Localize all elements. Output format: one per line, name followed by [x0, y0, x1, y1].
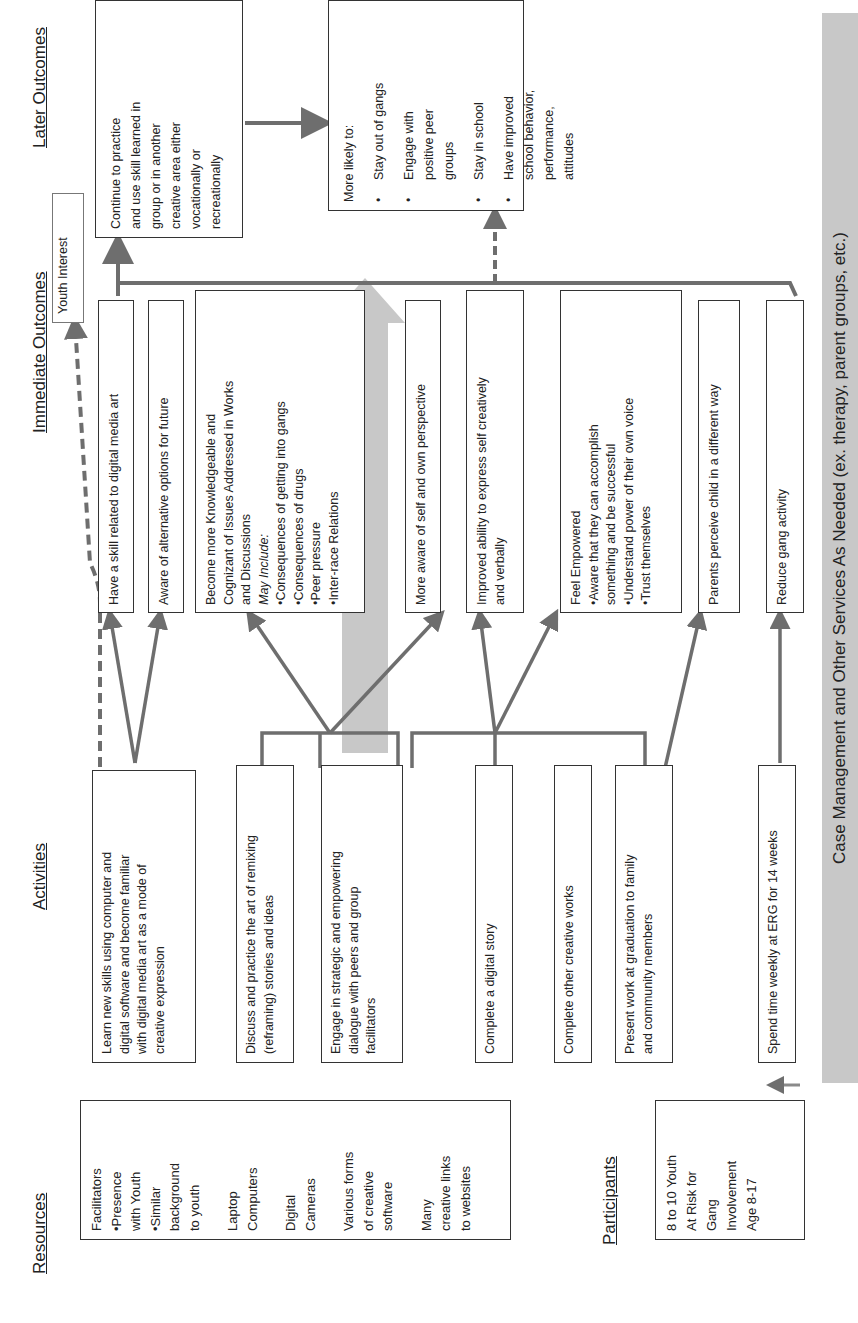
likely-line: performance,	[539, 90, 559, 180]
resource-line: Many	[417, 1109, 437, 1231]
outcome-aware: Aware of alternative options for future	[148, 300, 184, 613]
participant-line: Gang	[702, 1109, 722, 1231]
resource-line: software	[378, 1109, 398, 1231]
participant-line: 8 to 10 Youth	[662, 1109, 682, 1231]
participant-line: At Risk for	[682, 1109, 702, 1231]
outcome-line: More aware of self and own perspective	[413, 308, 431, 605]
activity-line: creative expression	[152, 779, 170, 1054]
outcome-line: and Discussions	[238, 298, 256, 605]
outcome-bullet: •Peer pressure	[308, 298, 326, 605]
resource-line	[320, 1109, 339, 1231]
logic-model-diagram: Resources Activities Immediate Outcomes …	[0, 0, 858, 1323]
likely-item: • Stay out of gangs	[369, 9, 389, 202]
activity-line: Spend time weekly at ERG for 14 weeks	[765, 774, 783, 1054]
outcome-gang: Reduce gang activity	[766, 300, 804, 613]
activity-line: with digital media art as a mode of	[134, 779, 152, 1054]
resources-box: Facilitators •Presence with Youth •Simil…	[80, 1100, 511, 1240]
likely-item: • Stay in school	[469, 9, 489, 202]
resource-line: Laptop	[223, 1109, 243, 1231]
resource-line: creative links	[436, 1109, 456, 1231]
outcome-line: Cognizant of Issues Addressed in Works	[221, 298, 239, 605]
resource-line: to youth	[185, 1109, 205, 1231]
later-line: and use skill learned in	[126, 9, 146, 229]
activity-present: Present work at graduation to family and…	[615, 765, 673, 1063]
activity-line: Complete a digital story	[482, 774, 500, 1054]
likely-line: positive peer	[419, 109, 439, 180]
outcome-line: Feel Empowered	[568, 298, 586, 605]
participant-line: Age 8-17	[742, 1109, 762, 1231]
outcome-bullet: •Consequences of drugs	[291, 298, 309, 605]
outcome-line: •Understand power of their own voice	[621, 298, 639, 605]
outcome-line: •Trust themselves	[638, 298, 656, 605]
activity-line: Discuss and practice the art of remixing	[243, 774, 261, 1054]
activity-remix: Discuss and practice the art of remixing…	[236, 765, 294, 1063]
resource-line: with Youth	[126, 1109, 146, 1231]
likely-title: More likely to:	[339, 9, 359, 202]
likely-line: Have improved	[499, 90, 519, 180]
resource-line: •Presence	[107, 1109, 127, 1231]
likely-line: school behavior,	[519, 90, 539, 180]
outcome-line: Become more Knowledgeable and	[203, 298, 221, 605]
outcome-bullet: •Inter-race Relations	[326, 298, 344, 605]
activity-dialogue: Engage in strategic and empowering dialo…	[321, 765, 403, 1063]
activity-line: and community members	[640, 774, 658, 1054]
outcome-self: More aware of self and own perspective	[405, 300, 441, 613]
later-outcome-likely: More likely to: • Stay out of gangs • En…	[328, 0, 524, 211]
outcome-line: Improved ability to express self creativ…	[474, 298, 492, 605]
activity-line: Learn new skills using computer and	[99, 779, 117, 1054]
resource-line: background	[165, 1109, 185, 1231]
activity-line: Present work at graduation to family	[622, 774, 640, 1054]
resource-line: •Similar	[146, 1109, 166, 1231]
resource-line: Computers	[243, 1109, 263, 1231]
resource-line: Facilitators	[87, 1109, 107, 1231]
likely-line: attitudes	[559, 90, 579, 180]
resource-line: Cameras	[301, 1109, 321, 1231]
participant-line: Involvement	[722, 1109, 742, 1231]
later-line: recreationally	[206, 9, 226, 229]
case-management-band: Case Management and Other Services As Ne…	[822, 13, 858, 1083]
activity-line: Complete other creative works	[561, 774, 579, 1054]
likely-line: Engage with	[399, 109, 419, 180]
later-outcome-continue: Continue to practice and use skill learn…	[95, 0, 243, 238]
outcome-line: and verbally	[492, 298, 510, 605]
resource-line	[398, 1109, 417, 1231]
later-line: group or in another	[146, 9, 166, 229]
youth-interest-callout: Youth Interest	[52, 193, 84, 323]
outcome-may-include: May Include:	[256, 298, 274, 605]
later-line: Continue to practice	[106, 9, 126, 229]
likely-line: groups	[439, 109, 459, 180]
outcome-line: Aware of alternative options for future	[156, 308, 174, 605]
outcome-express: Improved ability to express self creativ…	[466, 290, 524, 613]
resource-line: of creative	[359, 1109, 379, 1231]
activity-line: (reframing) stories and ideas	[261, 774, 279, 1054]
activity-learn: Learn new skills using computer and digi…	[92, 770, 196, 1063]
outcome-line: Have a skill related to digital media ar…	[106, 308, 124, 605]
activity-line: dialogue with peers and group	[346, 774, 364, 1054]
activity-line: Engage in strategic and empowering	[328, 774, 346, 1054]
activity-line: facilitators	[363, 774, 381, 1054]
outcome-skill: Have a skill related to digital media ar…	[98, 300, 134, 613]
resource-line: Various forms	[339, 1109, 359, 1231]
outcome-line: •Aware that they can accomplish	[586, 298, 604, 605]
activity-line: digital software and become familiar	[117, 779, 135, 1054]
likely-item: • Have improved school behavior, perform…	[499, 9, 579, 202]
resource-line	[262, 1109, 281, 1231]
participants-box: 8 to 10 Youth At Risk for Gang Involveme…	[655, 1100, 805, 1240]
activity-other: Complete other creative works	[554, 765, 592, 1063]
likely-item: • Engage with positive peer groups	[399, 9, 459, 202]
outcome-bullet: •Consequences of getting into gangs	[273, 298, 291, 605]
outcome-parents: Parents perceive child in a different wa…	[698, 300, 740, 613]
outcome-line: Reduce gang activity	[774, 308, 792, 605]
later-line: creative area either	[166, 9, 186, 229]
likely-line: Stay out of gangs	[369, 83, 389, 180]
likely-line: Stay in school	[469, 102, 489, 180]
outcome-empower: Feel Empowered •Aware that they can acco…	[560, 290, 682, 613]
activity-story: Complete a digital story	[475, 765, 513, 1063]
outcome-line: something and be successful	[603, 298, 621, 605]
activity-spend: Spend time weekly at ERG for 14 weeks	[758, 765, 796, 1063]
resource-line	[204, 1109, 223, 1231]
resource-line: to websites	[456, 1109, 476, 1231]
later-line: vocationally or	[186, 9, 206, 229]
resource-line: Digital	[281, 1109, 301, 1231]
outcome-knowledge: Become more Knowledgeable and Cognizant …	[195, 290, 365, 613]
